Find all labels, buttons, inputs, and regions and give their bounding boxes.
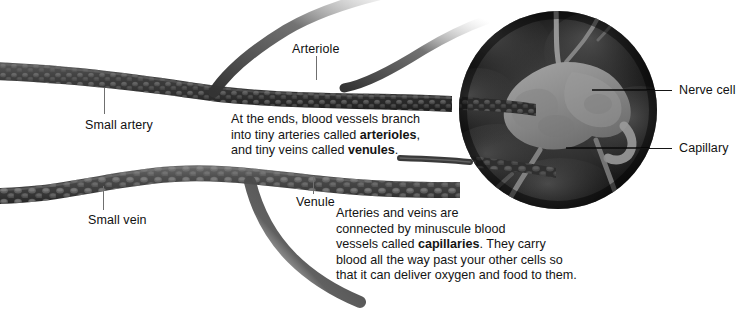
label-venule: Venule <box>296 195 335 209</box>
text-run: that it can deliver oxygen and food to t… <box>336 268 577 282</box>
leader-small-vein <box>103 186 104 210</box>
paragraph-line: At the ends, blood vessels branch <box>231 112 420 128</box>
paragraph-line: blood all the way past your other cells … <box>336 253 577 269</box>
emphasis-term: arterioles <box>360 128 417 142</box>
text-run: . <box>395 143 399 157</box>
paragraph-arterioles-venules: At the ends, blood vessels branchinto ti… <box>231 112 420 159</box>
label-small-vein: Small vein <box>88 213 147 227</box>
emphasis-term: capillaries <box>418 237 480 251</box>
text-run: vessels called <box>336 237 418 251</box>
magnified-inset-circle <box>434 8 694 234</box>
paragraph-capillaries: Arteries and veins areconnected by minus… <box>336 206 577 284</box>
paragraph-line: and tiny veins called venules. <box>231 143 420 159</box>
paragraph-line: into tiny arteries called arterioles, <box>231 128 420 144</box>
leader-small-artery <box>104 88 105 114</box>
label-arteriole: Arteriole <box>292 42 339 56</box>
label-small-artery: Small artery <box>85 118 153 132</box>
paragraph-line: vessels called capillaries. They carry <box>336 237 577 253</box>
diagram-canvas: Small artery Arteriole Small vein Venule… <box>0 0 750 313</box>
label-capillary: Capillary <box>679 141 729 155</box>
text-run: into tiny arteries called <box>231 128 360 142</box>
paragraph-line: that it can deliver oxygen and food to t… <box>336 268 577 284</box>
text-run: At the ends, blood vessels branch <box>231 112 420 126</box>
leader-venule <box>313 176 314 194</box>
text-run: . They carry <box>480 237 546 251</box>
text-run: and tiny veins called <box>231 143 348 157</box>
label-nerve-cell: Nerve cell <box>679 83 736 97</box>
text-run: blood all the way past your other cells … <box>336 253 563 267</box>
leader-arteriole <box>316 56 317 80</box>
leader-capillary <box>636 148 672 149</box>
paragraph-line: Arteries and veins are <box>336 206 577 222</box>
text-run: , <box>417 128 421 142</box>
paragraph-line: connected by minuscule blood <box>336 222 577 238</box>
leader-nerve-cell <box>640 90 672 91</box>
text-run: connected by minuscule blood <box>336 222 505 236</box>
emphasis-term: venules <box>348 143 395 157</box>
text-run: Arteries and veins are <box>336 206 459 220</box>
